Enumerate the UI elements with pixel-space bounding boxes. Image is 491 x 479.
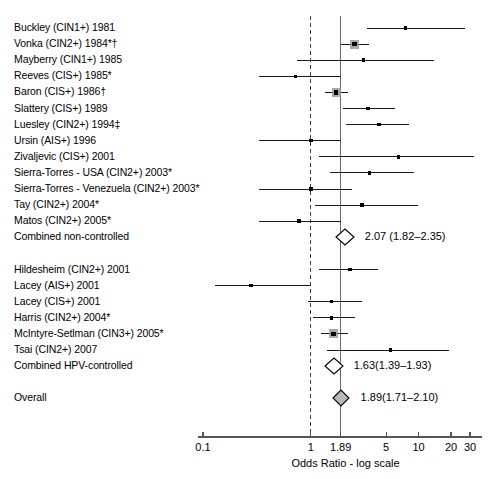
- summary-diamond: [331, 388, 351, 408]
- point-estimate-marker: [330, 316, 334, 320]
- point-estimate-marker: [404, 26, 408, 30]
- ci-line: [259, 189, 352, 190]
- x-axis-tick-label: 10: [412, 441, 424, 453]
- point-estimate-marker: [348, 268, 352, 272]
- overall-value: 1.89(1.71–2.10): [361, 391, 439, 403]
- point-estimate-marker: [368, 171, 372, 175]
- point-estimate-marker: [366, 107, 370, 111]
- study-label: Buckley (CIN1+) 1981: [14, 22, 115, 33]
- study-label: Sierra-Torres - Venezuela (CIN2+) 2003*: [14, 183, 199, 194]
- point-estimate-marker: [249, 284, 253, 288]
- study-label: Sierra-Torres - USA (CIN2+) 2003*: [14, 167, 172, 178]
- x-axis-tick-label: 1: [308, 441, 314, 453]
- study-label: Lacey (AIS+) 2001: [14, 280, 100, 291]
- summary-reference-line: [450, 432, 451, 437]
- point-estimate-marker: [309, 139, 313, 143]
- summary-diamond: [323, 356, 345, 376]
- study-label: Hildesheim (CIN2+) 2001: [14, 264, 130, 275]
- study-label: McIntyre-Setlman (CIN3+) 2005*: [14, 328, 164, 339]
- point-estimate-marker: [397, 155, 401, 159]
- point-estimate-marker: [352, 42, 357, 47]
- ci-line: [330, 172, 414, 173]
- point-estimate-marker: [294, 75, 298, 79]
- point-estimate-marker: [362, 58, 366, 62]
- ci-line: [259, 76, 341, 77]
- ci-line: [327, 350, 449, 351]
- study-label: Tay (CIN2+) 2004*: [14, 199, 99, 210]
- study-label: Vonka (CIN2+) 1984*†: [14, 38, 117, 49]
- ci-line: [297, 60, 434, 61]
- study-label: Matos (CIN2+) 2005*: [14, 215, 111, 226]
- point-estimate-marker: [377, 123, 381, 127]
- study-label: Ursin (AIS+) 1996: [14, 135, 96, 146]
- x-axis-tick-label: 0.1: [195, 441, 210, 453]
- point-estimate-marker: [331, 332, 336, 337]
- group-summary-value: 1.63(1.39–1.93): [354, 359, 432, 371]
- x-axis-tick-label: 1.89: [330, 441, 351, 453]
- ci-line: [367, 28, 465, 29]
- summary-reference-line: [340, 432, 341, 437]
- x-axis-tick-label: 5: [383, 441, 389, 453]
- group-summary-label: Combined HPV-controlled: [14, 360, 133, 371]
- summary-reference-line: [418, 432, 419, 437]
- study-label: Luesley (CIN2+) 1994‡: [14, 119, 120, 130]
- point-estimate-marker: [360, 203, 364, 207]
- x-axis-title: Odds Ratio - log scale: [291, 457, 399, 469]
- point-estimate-marker: [330, 300, 334, 304]
- ci-line: [259, 140, 341, 141]
- ci-line: [308, 301, 362, 302]
- study-label: Zivaljevic (CIS+) 2001: [14, 151, 115, 162]
- point-estimate-marker: [297, 219, 301, 223]
- point-estimate-marker: [309, 187, 313, 191]
- study-label: Harris (CIN2+) 2004*: [14, 312, 110, 323]
- study-label: Baron (CIS+) 1986†: [14, 86, 106, 97]
- point-estimate-marker: [334, 90, 339, 95]
- point-estimate-marker: [389, 348, 393, 352]
- x-axis-tick-label: 20: [445, 441, 457, 453]
- forest-plot: Buckley (CIN1+) 1981Vonka (CIN2+) 1984*†…: [0, 0, 491, 479]
- ci-line: [313, 317, 355, 318]
- ci-line: [215, 285, 311, 286]
- x-axis-tick-label: 30: [464, 441, 476, 453]
- study-label: Lacey (CIS+) 2001: [14, 296, 100, 307]
- summary-reference-line: [202, 432, 203, 437]
- study-label: Slattery (CIS+) 1989: [14, 103, 107, 114]
- study-label: Mayberry (CIN1+) 1985: [14, 54, 122, 65]
- summary-reference-line: [310, 432, 311, 437]
- ci-line: [315, 205, 418, 206]
- group-summary-value: 2.07 (1.82–2.35): [365, 230, 446, 242]
- study-label: Tsai (CIN2+) 2007: [14, 344, 97, 355]
- null-reference-line: [310, 16, 311, 437]
- summary-reference-line: [469, 432, 470, 437]
- summary-diamond: [334, 227, 356, 247]
- overall-label: Overall: [14, 392, 47, 403]
- study-label: Reeves (CIS+) 1985*: [14, 70, 112, 81]
- summary-reference-line: [386, 432, 387, 437]
- group-summary-label: Combined non-controlled: [14, 231, 129, 242]
